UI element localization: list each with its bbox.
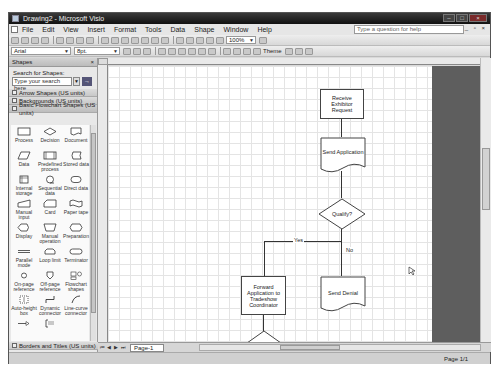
connector-line[interactable]: [341, 171, 342, 198]
pointer-tool-icon[interactable]: [176, 37, 184, 44]
shape-card[interactable]: Card: [37, 197, 63, 221]
menu-view[interactable]: View: [63, 26, 78, 33]
flow-document-send-application[interactable]: [320, 137, 366, 175]
menu-data[interactable]: Data: [170, 26, 185, 33]
underline-icon[interactable]: [143, 48, 151, 55]
menu-insert[interactable]: Insert: [87, 26, 105, 33]
permission-icon[interactable]: [41, 37, 49, 44]
drawing-canvas[interactable]: Receive Exhibitor Request Send Applicati…: [108, 66, 432, 342]
align-left-icon[interactable]: [158, 48, 166, 55]
menu-tools[interactable]: Tools: [145, 26, 161, 33]
theme-label[interactable]: Theme: [263, 48, 282, 54]
connector-no[interactable]: [341, 229, 342, 276]
shape-loop-limit[interactable]: Loop limit: [37, 245, 63, 269]
connector-line[interactable]: [341, 119, 342, 137]
line-ends-icon[interactable]: [305, 48, 313, 55]
shape-dynamic-connector[interactable]: Dynamic connector: [37, 293, 63, 317]
shape-process[interactable]: Process: [11, 125, 37, 149]
first-page-icon[interactable]: ⏮: [99, 344, 105, 351]
search-shapes-input[interactable]: Type your search here: [12, 77, 72, 86]
horizontal-scrollbar[interactable]: [199, 344, 481, 351]
stencil-basic-flowchart[interactable]: Basic Flowchart Shapes (US units): [9, 105, 97, 113]
search-go-button[interactable]: →: [82, 77, 92, 86]
print-preview-icon[interactable]: [66, 37, 74, 44]
shape-document[interactable]: Document: [63, 125, 89, 149]
font-size-combo[interactable]: 8pt.▼: [74, 47, 120, 55]
shape-manual-operation[interactable]: Manual operation: [37, 221, 63, 245]
shape-off-page-reference[interactable]: Off-page reference: [37, 269, 63, 293]
connector-tool-icon[interactable]: [186, 37, 194, 44]
shape-paper-tape[interactable]: Paper tape: [63, 197, 89, 221]
connector-line[interactable]: [263, 315, 264, 331]
scroll-thumb[interactable]: [280, 345, 340, 350]
close-icon[interactable]: ×: [90, 58, 94, 67]
help-search-input[interactable]: Type a question for help: [354, 25, 464, 34]
help-icon[interactable]: [259, 37, 267, 44]
undo-icon[interactable]: [151, 37, 159, 44]
connector-yes-down[interactable]: [264, 241, 265, 276]
shape-on-page-reference[interactable]: On-page reference: [11, 269, 37, 293]
shape-sequential-data[interactable]: Sequential data: [37, 173, 63, 197]
shapes-scrollbar[interactable]: [90, 125, 96, 341]
close-button[interactable]: ×: [469, 14, 487, 22]
menu-shape[interactable]: Shape: [194, 26, 214, 33]
save-icon[interactable]: [31, 37, 39, 44]
stencil-borders-titles[interactable]: Borders and Titles (US units): [9, 342, 98, 350]
align-center-icon[interactable]: [168, 48, 176, 55]
line-color-icon[interactable]: [233, 48, 241, 55]
flow-process-receive[interactable]: Receive Exhibitor Request: [320, 89, 364, 119]
flow-decision-partial[interactable]: [239, 330, 289, 342]
shape-manual-input[interactable]: Manual input: [11, 197, 37, 221]
ruler-corner[interactable]: [98, 58, 108, 65]
menu-format[interactable]: Format: [114, 26, 136, 33]
horizontal-ruler[interactable]: [108, 58, 480, 65]
decrease-indent-icon[interactable]: [198, 48, 206, 55]
shape-terminator[interactable]: Terminator: [63, 245, 89, 269]
increase-indent-icon[interactable]: [208, 48, 216, 55]
redo-icon[interactable]: [161, 37, 169, 44]
shape-flowchart-shapes[interactable]: Flowchart shapes: [63, 269, 89, 293]
document-window-controls[interactable]: _ ▫ ×: [465, 25, 487, 31]
flow-process-forward[interactable]: Forward Application to Tradeshow Coordin…: [241, 276, 286, 315]
bullets-icon[interactable]: [188, 48, 196, 55]
shape-data[interactable]: Data: [11, 149, 37, 173]
shape-parallel-mode[interactable]: Parallel mode: [11, 245, 37, 269]
last-page-icon[interactable]: ⏭: [120, 344, 126, 351]
shape-auto-height-box[interactable]: Auto-height box: [11, 293, 37, 317]
drawing-tools-icon[interactable]: [206, 37, 214, 44]
menu-edit[interactable]: Edit: [42, 26, 54, 33]
vertical-scrollbar[interactable]: [480, 58, 491, 342]
shape-display[interactable]: Display: [11, 221, 37, 245]
new-icon[interactable]: [11, 37, 19, 44]
copy-icon[interactable]: [111, 37, 119, 44]
research-icon[interactable]: [86, 37, 94, 44]
menu-help[interactable]: Help: [257, 26, 271, 33]
pan-zoom-icon[interactable]: [216, 37, 224, 44]
shape-extra-2[interactable]: [37, 317, 63, 341]
shape-internal-storage[interactable]: Internal storage: [11, 173, 37, 197]
chevron-down-icon[interactable]: ▼: [73, 77, 80, 86]
shape-stored-data[interactable]: Stored data: [63, 149, 89, 173]
paste-icon[interactable]: [121, 37, 129, 44]
page-tab[interactable]: Page-1: [130, 344, 164, 352]
theme-icon[interactable]: [253, 48, 261, 55]
italic-icon[interactable]: [133, 48, 141, 55]
bold-icon[interactable]: [123, 48, 131, 55]
fill-color-icon[interactable]: [243, 48, 251, 55]
menu-window[interactable]: Window: [223, 26, 248, 33]
prev-page-icon[interactable]: ◀: [106, 344, 112, 351]
font-color-icon[interactable]: [223, 48, 231, 55]
text-tool-icon[interactable]: [196, 37, 204, 44]
document-icon[interactable]: [11, 26, 18, 33]
shape-preparation[interactable]: Preparation: [63, 221, 89, 245]
menu-file[interactable]: File: [22, 26, 33, 33]
align-right-icon[interactable]: [178, 48, 186, 55]
delete-icon[interactable]: [131, 37, 139, 44]
shape-direct-data[interactable]: Direct data: [63, 173, 89, 197]
line-weight-icon[interactable]: [285, 48, 293, 55]
print-icon[interactable]: [56, 37, 64, 44]
vertical-ruler[interactable]: [98, 65, 108, 342]
minimize-button[interactable]: –: [443, 14, 455, 22]
shape-extra-1[interactable]: [11, 317, 37, 341]
shape-line-curve-connector[interactable]: Line-curve connector: [63, 293, 89, 317]
